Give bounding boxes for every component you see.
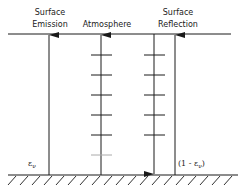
emissivity-label: εν <box>28 159 36 169</box>
radiative-transfer-diagram: Surface Emission Atmosphere Surface Refl… <box>0 0 241 192</box>
atmosphere-label: Atmosphere <box>83 20 132 29</box>
reflectivity-label: (1 - εν) <box>178 159 205 169</box>
surface-reflection-label-line1: Surface <box>163 8 194 17</box>
surface-emission-label-line1: Surface <box>35 8 66 17</box>
surface-reflection-label-line2: Reflection <box>158 20 198 29</box>
surface-emission-label-line2: Emission <box>32 20 68 29</box>
ground-hatching <box>8 176 232 185</box>
